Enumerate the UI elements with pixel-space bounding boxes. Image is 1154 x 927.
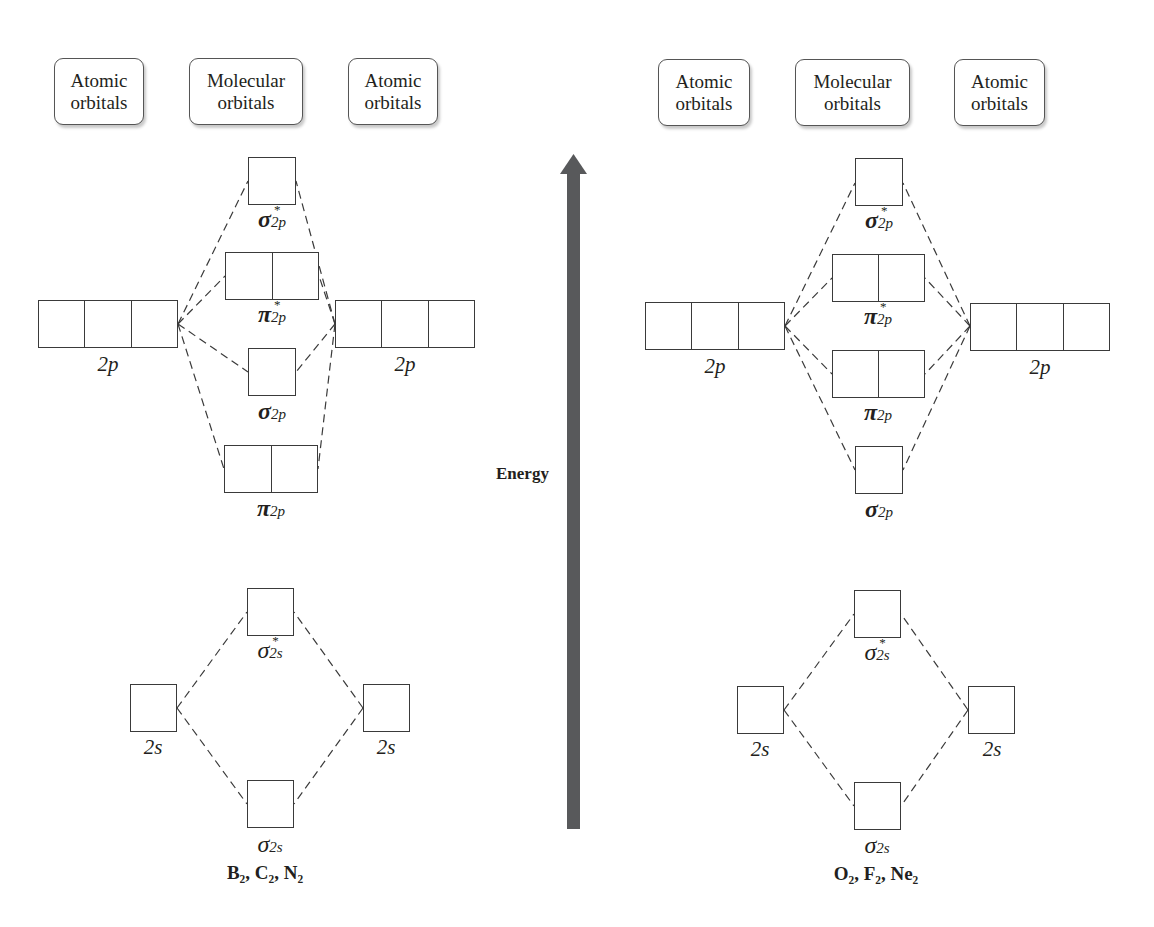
label-2p-left: 2p <box>58 352 158 377</box>
orbital-box-sigma-star-2p <box>855 158 903 206</box>
header-atomic-orbitals-right: Atomic orbitals <box>348 58 438 125</box>
orbital-box-sigma-2s <box>247 780 294 828</box>
label-pi-star-2p: π*2p <box>828 303 928 330</box>
label-2s-right: 2s <box>942 737 1042 762</box>
label-2s-left: 2s <box>103 735 203 760</box>
orbital-box-sigma-2s <box>854 782 901 830</box>
energy-arrow <box>560 154 587 829</box>
atomic-orbital-2p-left <box>38 300 178 348</box>
orbital-box-pi-star-2p <box>832 254 925 302</box>
orbital-box-sigma-star-2p <box>248 157 296 205</box>
header-text: orbitals <box>971 93 1028 115</box>
atomic-orbital-2p-right <box>970 303 1110 351</box>
orbital-box-sigma-star-2s <box>854 590 901 638</box>
orbital-box-sigma-2p <box>855 446 903 494</box>
header-text: orbitals <box>218 92 275 114</box>
header-text: orbitals <box>824 93 881 115</box>
label-sigma-star-2s: σ*2s <box>827 639 927 666</box>
atomic-orbital-2p-left <box>645 302 785 350</box>
label-pi-star-2p: π*2p <box>222 301 322 328</box>
header-text: orbitals <box>676 93 733 115</box>
header-text: orbitals <box>71 92 128 114</box>
atomic-orbital-2s-right <box>363 684 410 732</box>
atomic-orbital-2s-right <box>968 686 1015 734</box>
header-text: Molecular <box>813 71 891 93</box>
label-sigma-star-2s: σ*2s <box>220 637 320 664</box>
header-text: orbitals <box>365 92 422 114</box>
label-sigma-star-2p: σ*2p <box>222 206 322 233</box>
label-sigma-2p: σ2p <box>829 496 929 523</box>
label-2p-right: 2p <box>990 355 1090 380</box>
atomic-orbital-2p-right <box>335 300 475 348</box>
label-pi-2p: π2p <box>221 495 321 522</box>
atomic-orbital-2s-left <box>737 686 784 734</box>
label-2p-right: 2p <box>355 352 455 377</box>
label-2p-left: 2p <box>665 354 765 379</box>
label-2s-right: 2s <box>336 735 436 760</box>
header-text: Atomic <box>71 70 128 92</box>
header-atomic-orbitals-right: Atomic orbitals <box>954 59 1045 126</box>
orbital-box-pi-2p <box>224 445 318 493</box>
header-text: Atomic <box>365 70 422 92</box>
label-2s-left: 2s <box>710 737 810 762</box>
molecules-label-left: B₂, C₂, N₂ <box>165 862 365 884</box>
orbital-box-sigma-2p <box>248 348 296 396</box>
header-text: Atomic <box>676 71 733 93</box>
label-pi-2p: π2p <box>828 399 928 426</box>
molecules-label-right: O₂, F₂, Ne₂ <box>776 863 976 885</box>
label-sigma-2s: σ2s <box>827 832 927 859</box>
header-atomic-orbitals-left: Atomic orbitals <box>54 58 144 125</box>
header-molecular-orbitals: Molecular orbitals <box>795 59 910 126</box>
atomic-orbital-2s-left <box>130 684 177 732</box>
label-sigma-2p: σ2p <box>222 398 322 425</box>
correlation-lines <box>0 0 1154 927</box>
header-molecular-orbitals: Molecular orbitals <box>189 58 303 125</box>
header-text: Molecular <box>207 70 285 92</box>
energy-label: Energy <box>496 464 549 484</box>
header-text: Atomic <box>971 71 1028 93</box>
orbital-box-sigma-star-2s <box>247 588 294 636</box>
label-sigma-star-2p: σ*2p <box>829 207 929 234</box>
header-atomic-orbitals-left: Atomic orbitals <box>658 59 750 126</box>
label-sigma-2s: σ2s <box>220 831 320 858</box>
orbital-box-pi-star-2p <box>225 252 319 300</box>
orbital-box-pi-2p <box>832 350 925 398</box>
